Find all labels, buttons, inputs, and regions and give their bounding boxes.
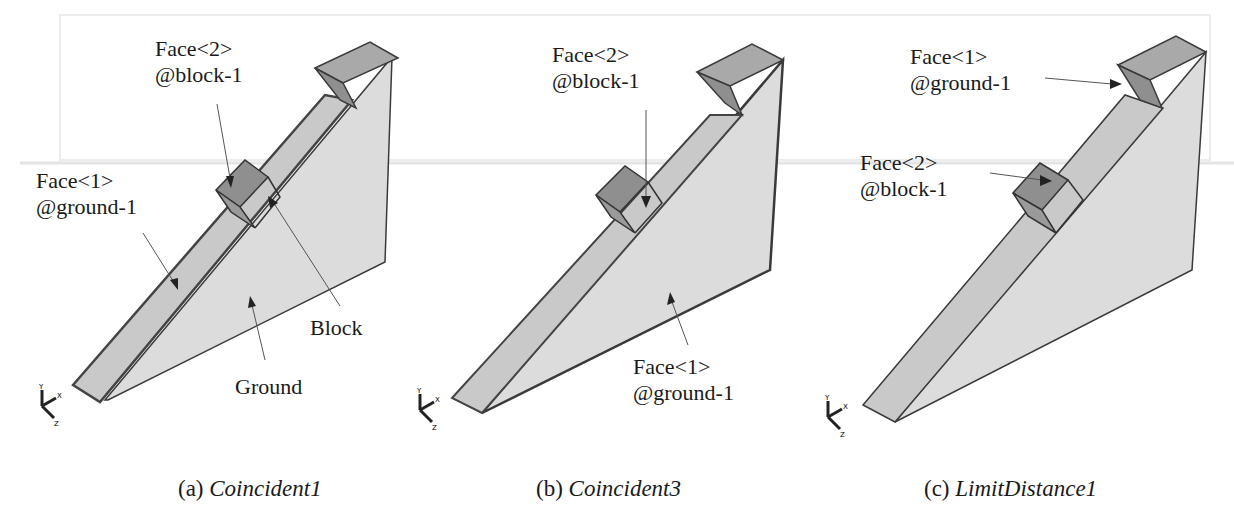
label-face1-ground: Face<1> @ground-1 [36,168,137,220]
svg-text:Y: Y [38,383,44,391]
caption-a: (a) Coincident1 [178,476,322,502]
label-ground: Ground [235,374,302,400]
caption-c: (c) LimitDistance1 [924,476,1097,502]
coordinate-triad-icon: Y X Z [34,384,64,428]
caption-b: (b) Coincident3 [536,476,681,502]
coordinate-triad-icon: Y X Z [820,395,850,439]
svg-text:Z: Z [840,431,845,439]
label-face1-ground: Face<1> @ground-1 [910,44,1011,96]
panel-coincident3: Face<2> @block-1 Face<1> @ground-1 Y X Z… [400,0,810,527]
panel-coincident1: Face<2> @block-1 Face<1> @ground-1 Block… [0,0,410,527]
panel-limitdistance1: Face<1> @ground-1 Face<2> @block-1 Y X Z… [800,0,1234,527]
cad-model-ground-and-block [800,0,1234,527]
label-face2-block: Face<2> @block-1 [860,150,947,202]
label-face2-block: Face<2> @block-1 [155,36,242,88]
svg-text:Y: Y [824,394,830,402]
svg-text:Z: Z [432,424,437,432]
label-face1-ground: Face<1> @ground-1 [633,354,734,406]
svg-text:X: X [843,403,848,411]
svg-text:X: X [57,392,62,400]
coordinate-triad-icon: Y X Z [412,388,442,432]
label-face2-block: Face<2> @block-1 [552,42,639,94]
svg-text:Y: Y [416,387,422,395]
svg-text:Z: Z [54,420,59,428]
svg-text:X: X [435,396,440,404]
label-block: Block [310,315,363,341]
